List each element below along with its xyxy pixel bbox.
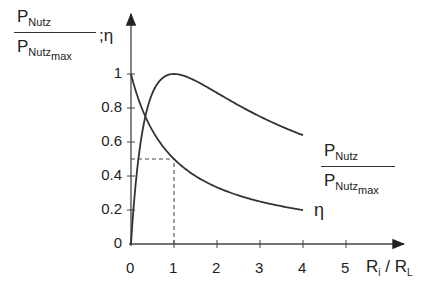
series-label-efficiency: η [314, 200, 324, 221]
fraction-bar [321, 166, 395, 167]
series-label-den-sub: Nutz [335, 180, 358, 192]
y-label-num-sub: Nutz [28, 16, 51, 28]
x-tick-label: 3 [255, 259, 263, 276]
y-tick-label: 0.2 [101, 200, 122, 217]
x-axis-label: Ri / RL [366, 257, 413, 277]
y-label-num-main: P [17, 7, 28, 26]
y-tick-label: 0.4 [101, 166, 122, 183]
y-label-suffix: ;η [99, 26, 113, 46]
fraction-bar [14, 32, 96, 33]
x-tick-label: 0 [126, 259, 134, 276]
x-label-b: R [395, 257, 407, 276]
y-tick-label: 0.6 [101, 132, 122, 149]
y-label-den-sub: Nutz [28, 46, 51, 58]
efficiency-curve [131, 74, 303, 210]
x-tick-label: 1 [169, 259, 177, 276]
series-label-power: PNutz PNutzmax [321, 142, 395, 189]
series-label-num-main: P [324, 141, 335, 160]
y-label-den-subsub: max [51, 50, 72, 62]
power-ratio-curve [131, 74, 303, 244]
x-tick-label: 2 [212, 259, 220, 276]
x-label-b-sub: L [407, 267, 413, 278]
x-label-a-sub: i [378, 267, 380, 278]
x-tick-label: 4 [298, 259, 306, 276]
x-label-a: R [366, 257, 378, 276]
y-tick-label: 1 [114, 64, 122, 81]
y-tick-label: 0.8 [101, 98, 122, 115]
series-label-num-sub: Nutz [335, 150, 358, 162]
data-curves [131, 74, 303, 244]
series-label-den-subsub: max [358, 184, 379, 196]
x-tick-label: 5 [341, 259, 349, 276]
y-tick-label: 0 [114, 234, 122, 251]
series-label-den-main: P [324, 171, 335, 190]
axis-ticks [127, 74, 346, 248]
y-label-den-main: P [17, 37, 28, 56]
y-axis-label: PNutz PNutzmax [14, 8, 96, 55]
axes [129, 14, 404, 246]
x-label-sep: / [381, 257, 395, 276]
